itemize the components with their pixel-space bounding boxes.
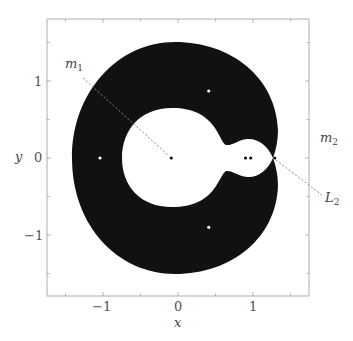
ytick-label-neg1: −1 <box>24 229 43 242</box>
ytick-label-0: 0 <box>34 151 42 164</box>
m2-sub: 2 <box>332 137 338 147</box>
L2-leader-line <box>276 160 322 195</box>
m1-base: m <box>65 56 77 71</box>
point-m1 <box>170 156 173 159</box>
point-l1 <box>244 156 247 159</box>
xtick-label-neg1: −1 <box>92 300 111 313</box>
point-l4 <box>207 89 210 92</box>
m2-base: m <box>320 130 332 145</box>
zero-velocity-plot <box>0 0 353 341</box>
point-l2 <box>273 156 276 159</box>
L2-annotation: L2 <box>325 191 339 207</box>
m2-annotation: m2 <box>320 131 338 147</box>
point-m2 <box>249 156 252 159</box>
L2-base: L <box>325 190 334 205</box>
m1-annotation: m1 <box>65 57 83 73</box>
xtick-label-1: 1 <box>249 300 257 313</box>
point-l3 <box>98 156 101 159</box>
y-axis-label: y <box>15 150 22 163</box>
x-axis-label: x <box>174 316 181 329</box>
ytick-label-1: 1 <box>34 75 42 88</box>
point-l5 <box>207 226 210 229</box>
xtick-label-0: 0 <box>174 300 182 313</box>
m1-sub: 1 <box>77 63 83 73</box>
L2-sub: 2 <box>334 197 340 207</box>
